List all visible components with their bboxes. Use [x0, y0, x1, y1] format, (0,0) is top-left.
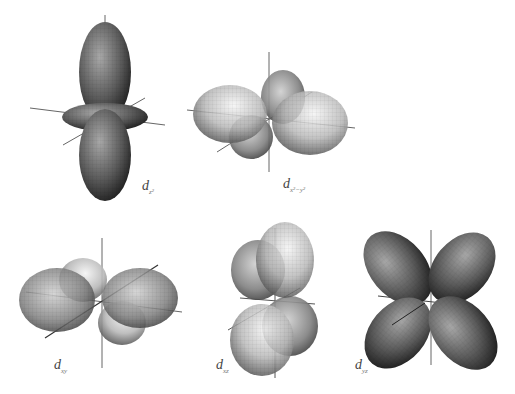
- orbital-dyz: [350, 218, 512, 383]
- orbital-dx2y2: [187, 52, 355, 172]
- label-main: d: [54, 357, 61, 372]
- orbital-dxy: [19, 238, 182, 368]
- label-sub: xy: [61, 367, 67, 375]
- label-dz2: dz²: [142, 178, 154, 196]
- label-main: d: [283, 176, 290, 191]
- label-sub: yz: [362, 367, 368, 375]
- label-dxy: dxy: [54, 357, 67, 375]
- label-dxz: dxz: [216, 357, 229, 375]
- label-sub: z²: [149, 188, 154, 196]
- label-dx2y2: dx²−y²: [283, 176, 305, 194]
- orbital-dxz: [228, 222, 318, 378]
- orbitals-diagram: [0, 0, 515, 394]
- orbital-dz2: [30, 15, 165, 201]
- label-dyz: dyz: [355, 357, 368, 375]
- label-sub: x²−y²: [290, 186, 305, 194]
- label-main: d: [216, 357, 223, 372]
- label-main: d: [142, 178, 149, 193]
- label-sub: xz: [223, 367, 229, 375]
- label-main: d: [355, 357, 362, 372]
